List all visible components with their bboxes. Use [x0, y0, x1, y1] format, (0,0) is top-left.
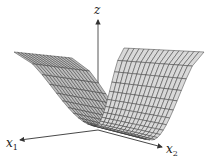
- surface-plot: [0, 0, 214, 165]
- right-surface: [96, 48, 204, 140]
- x2-axis-label: x2: [166, 143, 178, 158]
- z-label-text: z: [94, 3, 100, 17]
- x1-axis: [20, 130, 98, 140]
- z-axis-label: z: [94, 4, 100, 16]
- x2-subscript: 2: [173, 149, 178, 158]
- x1-axis-label: x1: [6, 137, 18, 152]
- x2-label-text: x: [166, 142, 173, 156]
- x1-label-text: x: [6, 136, 13, 150]
- x1-subscript: 1: [13, 143, 18, 152]
